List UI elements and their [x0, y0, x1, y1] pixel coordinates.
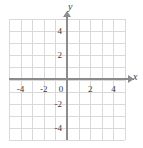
x-tick-label: 2 [82, 85, 98, 94]
y-axis-label: y [68, 2, 72, 12]
x-axis-label: x [133, 72, 137, 82]
y-tick-label: 2 [46, 51, 62, 60]
coordinate-plane: x y -4-202442-2-4 [0, 0, 143, 148]
origin-tick-label: 0 [53, 85, 69, 94]
x-axis-line [9, 78, 130, 80]
x-tick-label: 4 [105, 85, 121, 94]
x-tick-label: -2 [36, 85, 52, 94]
y-tick-label: 4 [46, 27, 62, 36]
y-tick-label: -4 [46, 124, 62, 133]
y-tick-label: -2 [46, 100, 62, 109]
x-tick-label: -4 [13, 85, 29, 94]
grid-line-horizontal [9, 140, 125, 141]
y-axis-line [66, 14, 68, 140]
